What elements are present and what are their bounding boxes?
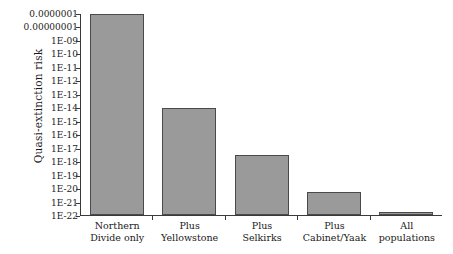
x-axis-category-label-line: Plus <box>226 220 298 232</box>
plot-area <box>80 14 442 216</box>
x-axis-category-label-line: Yellowstone <box>153 232 225 244</box>
y-axis-tick-label: 1E-18 <box>18 158 78 167</box>
bar-slot <box>370 14 442 215</box>
x-axis-category-label: NorthernDivide only <box>81 220 153 244</box>
y-axis-tick-mark <box>76 68 80 69</box>
x-axis-category-label: Allpopulations <box>371 220 443 244</box>
x-axis-category-labels: NorthernDivide onlyPlusYellowstonePlusSe… <box>81 220 443 244</box>
y-axis-tick-mark <box>76 27 80 28</box>
y-axis-tick-mark <box>76 162 80 163</box>
y-axis-tick-label: 1E-21 <box>18 198 78 207</box>
y-axis-tick-label: 1E-15 <box>18 117 78 126</box>
y-axis-tick-label: 1E-16 <box>18 131 78 140</box>
x-axis-category-label-line: populations <box>371 232 443 244</box>
x-axis-category-label-line: Plus <box>298 220 370 232</box>
y-axis-tick-label: 0.00000001 <box>18 23 78 32</box>
x-axis-category-label: PlusCabinet/Yaak <box>298 220 370 244</box>
bar-chart-figure: Quasi-extinction risk 0.00000010.0000000… <box>0 0 453 254</box>
y-axis-tick-mark <box>76 95 80 96</box>
y-axis-tick-mark <box>76 81 80 82</box>
y-axis-tick-mark <box>76 108 80 109</box>
bar[interactable] <box>307 192 361 215</box>
y-axis-tick-mark <box>76 135 80 136</box>
x-axis-category-label-line: Cabinet/Yaak <box>298 232 370 244</box>
bar-slot <box>298 14 370 215</box>
y-axis-tick-mark <box>76 14 80 15</box>
bar[interactable] <box>162 108 216 215</box>
x-axis-category-label: PlusSelkirks <box>226 220 298 244</box>
x-axis-category-label-line: All <box>371 220 443 232</box>
y-axis-tick-label: 1E-11 <box>18 63 78 72</box>
y-axis-tick-label: 1E-20 <box>18 185 78 194</box>
bar-series <box>81 14 442 215</box>
y-axis-tick-mark <box>76 176 80 177</box>
bar-slot <box>225 14 297 215</box>
y-axis-tick-mark <box>76 203 80 204</box>
y-axis-tick-label: 1E-14 <box>18 104 78 113</box>
bar[interactable] <box>379 212 433 215</box>
y-axis-tick-mark <box>76 216 80 217</box>
y-axis-tick-label: 1E-22 <box>18 212 78 221</box>
bar-slot <box>81 14 153 215</box>
y-axis-tick-label: 1E-12 <box>18 77 78 86</box>
y-axis-tick-label: 1E-09 <box>18 36 78 45</box>
x-axis-category-label-line: Plus <box>153 220 225 232</box>
bar[interactable] <box>90 14 144 215</box>
y-axis-tick-label: 1E-10 <box>18 50 78 59</box>
x-axis-category-label-line: Divide only <box>81 232 153 244</box>
x-axis-category-label-line: Selkirks <box>226 232 298 244</box>
y-axis-tick-mark <box>76 122 80 123</box>
y-axis-tick-label: 1E-19 <box>18 171 78 180</box>
y-axis-tick-mark <box>76 189 80 190</box>
bar-slot <box>153 14 225 215</box>
y-axis-tick-mark <box>76 149 80 150</box>
bar[interactable] <box>235 155 289 215</box>
y-axis-tick-label: 1E-13 <box>18 90 78 99</box>
y-axis-tick-mark <box>76 54 80 55</box>
x-axis-category-label: PlusYellowstone <box>153 220 225 244</box>
x-axis-line <box>80 215 442 216</box>
y-axis-tick-label: 1E-17 <box>18 144 78 153</box>
y-axis-tick-label: 0.0000001 <box>18 10 78 19</box>
x-axis-category-label-line: Northern <box>81 220 153 232</box>
y-axis-tick-labels: 0.00000010.000000011E-091E-101E-111E-121… <box>18 14 78 216</box>
y-axis-tick-mark <box>76 41 80 42</box>
